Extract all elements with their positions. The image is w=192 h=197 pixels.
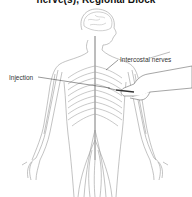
injection-label: Injection — [9, 74, 33, 81]
head-outline — [81, 9, 116, 50]
injection-leader-line — [38, 77, 110, 88]
intercostal-leader-line — [106, 60, 118, 70]
intercostal-nerves-label: Intercostal nerves — [120, 56, 171, 63]
brain — [84, 12, 112, 31]
body-outline-left — [32, 52, 88, 160]
nervous-system-illustration — [0, 0, 192, 197]
right-hand — [150, 158, 168, 180]
left-hand — [22, 158, 40, 180]
